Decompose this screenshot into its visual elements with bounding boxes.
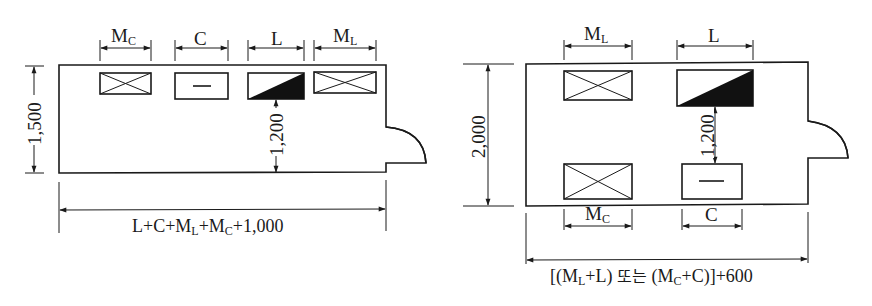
right-door-swing-icon: [808, 121, 848, 158]
left-urinal-ml-icon: [314, 72, 376, 93]
svg-text:ML: ML: [333, 25, 357, 48]
svg-text:C: C: [194, 28, 207, 49]
right-urinal-mc-icon: [564, 164, 632, 199]
left-dim-mc: MC: [100, 25, 151, 61]
svg-text:MC: MC: [585, 203, 610, 226]
left-layout: MC C L ML: [24, 25, 426, 238]
svg-text:1,500: 1,500: [24, 102, 45, 145]
right-toilet-c-icon: [682, 164, 742, 199]
right-lavatory-l-icon: [677, 70, 753, 106]
right-height-dimension: 2,000: [463, 64, 514, 206]
right-dim-l: L: [677, 25, 753, 60]
right-clearance-dimension: 1,200: [697, 107, 718, 163]
svg-text:MC: MC: [111, 25, 136, 48]
right-layout: ML L 1,200: [463, 23, 848, 288]
svg-text:L: L: [271, 28, 283, 49]
left-height-dimension: 1,500: [24, 66, 45, 173]
left-lavatory-l-icon: [248, 73, 304, 99]
right-urinal-ml-icon: [564, 71, 632, 100]
right-width-formula: [(ML+L) 또는 (MC+C)]+600: [550, 266, 753, 288]
svg-text:1,200: 1,200: [266, 113, 287, 156]
left-urinal-mc-icon: [100, 73, 151, 94]
svg-text:L: L: [708, 25, 720, 46]
svg-text:1,200: 1,200: [697, 114, 718, 157]
left-width-dimension: L+C+ML+MC+1,000: [59, 180, 386, 238]
right-dim-mc: MC: [564, 203, 632, 230]
left-dim-ml: ML: [314, 25, 376, 61]
svg-text:2,000: 2,000: [468, 115, 489, 158]
svg-text:C: C: [705, 204, 718, 225]
left-width-formula: L+C+ML+MC+1,000: [132, 216, 283, 238]
left-clearance-dimension: 1,200: [266, 100, 287, 172]
left-dim-l: L: [248, 28, 304, 61]
left-toilet-c-icon: [175, 73, 228, 99]
svg-text:ML: ML: [584, 23, 608, 46]
right-width-dimension: [(ML+L) 또는 (MC+C)]+600: [526, 212, 808, 288]
left-door-swing-icon: [386, 127, 426, 163]
left-dim-c: C: [175, 28, 228, 61]
right-dim-c: C: [682, 204, 742, 230]
restroom-layout-diagram: MC C L ML: [0, 0, 872, 306]
right-dim-ml: ML: [564, 23, 632, 60]
